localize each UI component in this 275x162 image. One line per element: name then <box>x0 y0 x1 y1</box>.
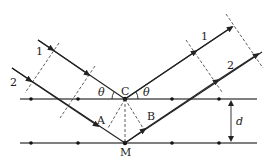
label-point-m: M <box>120 146 131 159</box>
label-ray-1-outgoing: 1 <box>201 30 208 43</box>
label-point-c: C <box>121 85 129 98</box>
label-theta-right: θ <box>143 86 150 99</box>
reflected-wavefront-1 <box>186 40 222 92</box>
label-ray-2-incoming: 2 <box>10 76 17 89</box>
perpendicular-c-a <box>108 99 125 128</box>
perpendicular-c-b <box>125 99 143 128</box>
label-ray-1-incoming: 1 <box>36 45 43 58</box>
label-ray-2-outgoing: 2 <box>227 59 234 72</box>
theta-arc-right <box>136 92 138 99</box>
bragg-diagram: 1 2 1 2 C M A B θ θ d <box>0 0 275 162</box>
label-spacing-d: d <box>236 115 243 128</box>
label-point-b: B <box>147 110 155 123</box>
incident-wavefront-2 <box>60 66 95 118</box>
theta-arc-left <box>112 92 114 99</box>
label-theta-left: θ <box>98 86 105 99</box>
label-point-a: A <box>96 114 106 127</box>
